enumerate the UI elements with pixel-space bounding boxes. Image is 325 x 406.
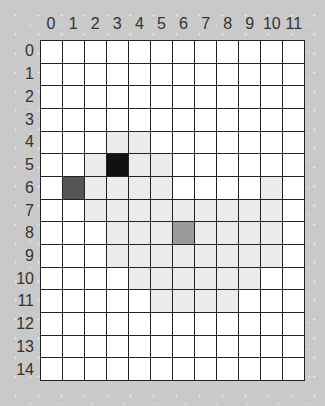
grid-cell-7-5[interactable] [151, 200, 173, 223]
grid-cell-10-11[interactable] [283, 268, 305, 291]
grid-cell-5-6[interactable] [173, 154, 195, 177]
grid-cell-1-4[interactable] [129, 64, 151, 87]
grid-cell-14-1[interactable] [63, 358, 85, 381]
grid-cell-7-3[interactable] [107, 200, 129, 223]
grid-cell-13-7[interactable] [195, 336, 217, 359]
grid-cell-3-10[interactable] [261, 109, 283, 132]
grid-cell-6-10[interactable] [261, 177, 283, 200]
grid-cell-13-2[interactable] [85, 336, 107, 359]
grid-cell-0-4[interactable] [129, 41, 151, 64]
grid-cell-9-5[interactable] [151, 245, 173, 268]
grid-cell-11-0[interactable] [41, 290, 63, 313]
grid-cell-2-8[interactable] [217, 86, 239, 109]
grid-cell-13-0[interactable] [41, 336, 63, 359]
grid-cell-12-0[interactable] [41, 313, 63, 336]
grid-cell-0-1[interactable] [63, 41, 85, 64]
grid-cell-7-4[interactable] [129, 200, 151, 223]
grid-cell-10-3[interactable] [107, 268, 129, 291]
grid-cell-11-11[interactable] [283, 290, 305, 313]
grid-cell-7-0[interactable] [41, 200, 63, 223]
grid-cell-14-9[interactable] [239, 358, 261, 381]
grid-cell-14-6[interactable] [173, 358, 195, 381]
grid-cell-4-9[interactable] [239, 132, 261, 155]
grid-cell-11-4[interactable] [129, 290, 151, 313]
grid-cell-5-1[interactable] [63, 154, 85, 177]
grid-cell-9-7[interactable] [195, 245, 217, 268]
grid-cell-9-11[interactable] [283, 245, 305, 268]
grid-cell-8-2[interactable] [85, 222, 107, 245]
grid-cell-3-6[interactable] [173, 109, 195, 132]
grid-cell-5-4[interactable] [129, 154, 151, 177]
grid-cell-7-9[interactable] [239, 200, 261, 223]
grid-cell-11-6[interactable] [173, 290, 195, 313]
grid-cell-4-6[interactable] [173, 132, 195, 155]
grid-cell-11-2[interactable] [85, 290, 107, 313]
grid-cell-13-9[interactable] [239, 336, 261, 359]
grid-cell-3-11[interactable] [283, 109, 305, 132]
grid-cell-14-2[interactable] [85, 358, 107, 381]
grid-cell-0-11[interactable] [283, 41, 305, 64]
grid-cell-6-2[interactable] [85, 177, 107, 200]
grid-cell-3-7[interactable] [195, 109, 217, 132]
grid-cell-4-11[interactable] [283, 132, 305, 155]
grid-cell-6-8[interactable] [217, 177, 239, 200]
grid-cell-13-11[interactable] [283, 336, 305, 359]
grid-cell-1-5[interactable] [151, 64, 173, 87]
grid-cell-5-5[interactable] [151, 154, 173, 177]
grid-cell-3-2[interactable] [85, 109, 107, 132]
grid-cell-7-6[interactable] [173, 200, 195, 223]
grid-cell-5-3[interactable] [107, 154, 129, 177]
grid-cell-5-7[interactable] [195, 154, 217, 177]
grid-cell-6-4[interactable] [129, 177, 151, 200]
grid-cell-10-9[interactable] [239, 268, 261, 291]
grid-cell-9-6[interactable] [173, 245, 195, 268]
grid-cell-1-9[interactable] [239, 64, 261, 87]
grid-cell-10-6[interactable] [173, 268, 195, 291]
grid-cell-4-10[interactable] [261, 132, 283, 155]
grid-cell-10-7[interactable] [195, 268, 217, 291]
grid-cell-5-2[interactable] [85, 154, 107, 177]
grid-cell-8-7[interactable] [195, 222, 217, 245]
grid-cell-3-3[interactable] [107, 109, 129, 132]
grid-cell-2-1[interactable] [63, 86, 85, 109]
grid-cell-4-3[interactable] [107, 132, 129, 155]
grid-cell-7-8[interactable] [217, 200, 239, 223]
grid-cell-8-4[interactable] [129, 222, 151, 245]
grid-cell-2-4[interactable] [129, 86, 151, 109]
grid-cell-1-2[interactable] [85, 64, 107, 87]
grid-cell-12-1[interactable] [63, 313, 85, 336]
grid-cell-5-11[interactable] [283, 154, 305, 177]
grid-cell-0-2[interactable] [85, 41, 107, 64]
grid-cell-14-5[interactable] [151, 358, 173, 381]
grid-cell-0-0[interactable] [41, 41, 63, 64]
grid-cell-6-3[interactable] [107, 177, 129, 200]
grid-cell-11-5[interactable] [151, 290, 173, 313]
grid-cell-2-11[interactable] [283, 86, 305, 109]
grid-cell-12-4[interactable] [129, 313, 151, 336]
grid-cell-11-10[interactable] [261, 290, 283, 313]
grid-cell-9-10[interactable] [261, 245, 283, 268]
grid-cell-12-8[interactable] [217, 313, 239, 336]
grid-cell-13-5[interactable] [151, 336, 173, 359]
grid-cell-9-3[interactable] [107, 245, 129, 268]
grid-cell-5-0[interactable] [41, 154, 63, 177]
grid-cell-8-6[interactable] [173, 222, 195, 245]
grid-cell-12-5[interactable] [151, 313, 173, 336]
grid-cell-5-10[interactable] [261, 154, 283, 177]
grid-cell-1-0[interactable] [41, 64, 63, 87]
grid-cell-5-9[interactable] [239, 154, 261, 177]
grid-cell-2-5[interactable] [151, 86, 173, 109]
grid-cell-7-7[interactable] [195, 200, 217, 223]
grid-cell-10-5[interactable] [151, 268, 173, 291]
grid-cell-6-1[interactable] [63, 177, 85, 200]
grid-cell-13-8[interactable] [217, 336, 239, 359]
grid-cell-8-5[interactable] [151, 222, 173, 245]
grid-cell-14-11[interactable] [283, 358, 305, 381]
grid-cell-14-3[interactable] [107, 358, 129, 381]
grid-cell-10-2[interactable] [85, 268, 107, 291]
grid-cell-4-2[interactable] [85, 132, 107, 155]
grid-cell-14-0[interactable] [41, 358, 63, 381]
grid-cell-3-4[interactable] [129, 109, 151, 132]
grid-cell-10-8[interactable] [217, 268, 239, 291]
grid-cell-0-10[interactable] [261, 41, 283, 64]
